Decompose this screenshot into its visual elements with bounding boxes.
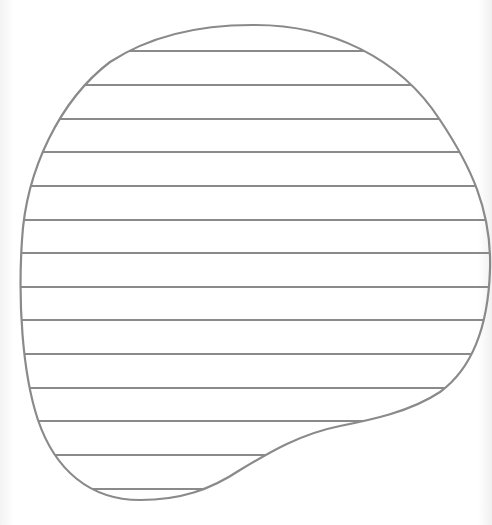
blob-outline	[21, 25, 491, 500]
diagram-canvas	[0, 0, 492, 525]
hatch-lines	[0, 51, 492, 489]
hatched-blob-diagram	[0, 0, 492, 525]
